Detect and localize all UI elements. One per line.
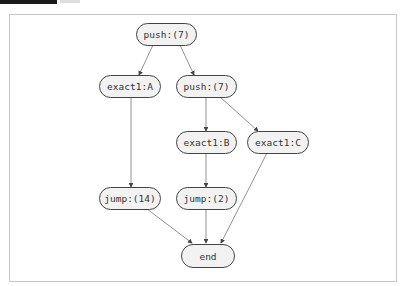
node-end[interactable]: end: [181, 244, 235, 268]
edge-n3-n5: [220, 97, 258, 131]
node-exact1-c[interactable]: exact1:C: [247, 131, 309, 154]
edge-n1-n3: [180, 45, 194, 75]
edge-n1-n2: [139, 45, 153, 75]
node-push-7-root[interactable]: push:(7): [136, 23, 197, 46]
node-jump-2[interactable]: jump:(2): [176, 187, 237, 210]
node-jump-14[interactable]: jump:(14): [99, 187, 161, 210]
node-exact1-b[interactable]: exact1:B: [176, 131, 237, 154]
node-exact1-a[interactable]: exact1:A: [99, 75, 161, 98]
edge-n6-n8: [147, 209, 192, 243]
node-push-7-child[interactable]: push:(7): [176, 75, 237, 98]
